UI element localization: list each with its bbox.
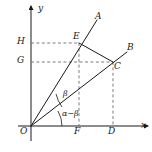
x-axis-label: x bbox=[141, 121, 146, 130]
point-label-O: O bbox=[20, 127, 27, 136]
point-label-C: C bbox=[114, 62, 121, 71]
point-label-G: G bbox=[17, 56, 24, 65]
point-label-B: B bbox=[127, 43, 134, 52]
point-label-D: D bbox=[108, 127, 115, 136]
angle-label-alpha-minus-beta: α−β bbox=[62, 110, 79, 118]
segment-EC bbox=[79, 43, 113, 62]
angle-label-beta: β bbox=[63, 90, 68, 98]
point-label-E: E bbox=[73, 32, 80, 41]
y-axis-label: y bbox=[38, 4, 43, 13]
geometry-figure: y x O A B C D E F G H β α−β bbox=[0, 0, 152, 152]
point-label-F: F bbox=[74, 127, 80, 136]
point-label-H: H bbox=[17, 37, 25, 46]
arc-beta bbox=[56, 94, 62, 107]
point-label-A: A bbox=[95, 12, 102, 21]
